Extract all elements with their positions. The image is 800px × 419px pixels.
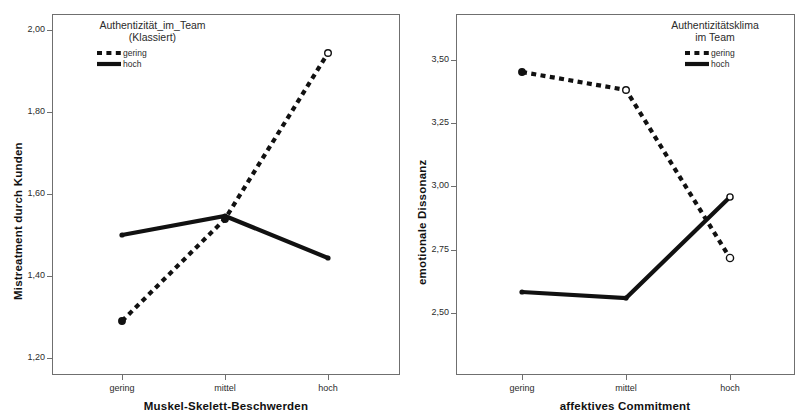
interaction-plots-figure: Mistreatment durch Kunden 2,00 1,80 1,60… <box>0 0 800 419</box>
y-tick-label: 2,75 <box>409 244 449 254</box>
x-axis-title-right: affektives Commitment <box>456 400 794 412</box>
legend-right: Authentizitätsklima im Team gering <box>640 20 790 70</box>
y-tick-label: 3,00 <box>409 180 449 190</box>
legend-item-gering[interactable]: gering <box>684 48 735 59</box>
x-axis-title-left: Muskel-Skelett-Beschwerden <box>52 400 400 412</box>
x-tick-label: mittel <box>195 383 255 393</box>
legend-label-gering: gering <box>123 49 147 58</box>
legend-label-gering: gering <box>711 49 735 58</box>
data-point <box>726 254 733 261</box>
legend-title-line-1: Authentizität_im_Team <box>70 20 235 32</box>
y-tick-label: 3,50 <box>409 54 449 64</box>
data-point <box>222 213 227 218</box>
y-axis-ticks-right <box>451 61 457 314</box>
legend-title-line-2: (Klassiert) <box>70 32 235 44</box>
legend-item-hoch[interactable]: hoch <box>96 59 141 70</box>
y-tick-label: 2,50 <box>409 307 449 317</box>
dashed-line-icon <box>684 48 710 58</box>
legend-label-hoch: hoch <box>123 60 141 69</box>
x-tick-label: gering <box>92 383 152 393</box>
data-point <box>727 194 733 200</box>
y-tick-label: 2,00 <box>5 24 45 34</box>
y-tick-label: 3,25 <box>409 117 449 127</box>
legend-entries-left: gering hoch <box>70 48 235 70</box>
y-tick-label: 1,20 <box>5 352 45 362</box>
data-point <box>623 87 630 94</box>
legend-left: Authentizität_im_Team (Klassiert) gering <box>70 20 235 70</box>
legend-label-hoch: hoch <box>711 60 729 69</box>
x-tick-label: hoch <box>298 383 358 393</box>
y-axis-title-right: emotionale Dissonanz <box>416 160 428 285</box>
data-point <box>519 69 526 76</box>
x-axis-ticks-right <box>523 375 731 381</box>
y-tick-label: 1,60 <box>5 188 45 198</box>
y-tick-label: 1,80 <box>5 106 45 116</box>
data-point <box>623 295 628 300</box>
legend-item-gering[interactable]: gering <box>96 48 147 59</box>
solid-line-icon <box>684 59 710 69</box>
data-point <box>119 232 124 237</box>
panel-right: emotionale Dissonanz 3,50 3,25 3,00 2,75… <box>400 0 800 419</box>
data-point <box>119 318 126 325</box>
x-tick-label: mittel <box>596 383 656 393</box>
x-tick-label: gering <box>492 383 552 393</box>
dashed-line-icon <box>96 48 122 58</box>
x-tick-label: hoch <box>700 383 760 393</box>
solid-line-icon <box>96 59 122 69</box>
data-point <box>519 289 524 294</box>
legend-title-line-2: im Team <box>640 32 790 44</box>
legend-title-line-1: Authentizitätsklima <box>640 20 790 32</box>
panel-left: Mistreatment durch Kunden 2,00 1,80 1,60… <box>0 0 400 419</box>
legend-title-right: Authentizitätsklima im Team <box>640 20 790 44</box>
data-point <box>325 255 330 260</box>
x-axis-ticks-left <box>123 375 329 381</box>
legend-entries-right: gering hoch <box>640 48 790 70</box>
y-tick-label: 1,40 <box>5 270 45 280</box>
legend-item-hoch[interactable]: hoch <box>684 59 729 70</box>
y-axis-ticks-left <box>47 31 53 359</box>
legend-title-left: Authentizität_im_Team (Klassiert) <box>70 20 235 44</box>
data-point <box>325 50 332 57</box>
